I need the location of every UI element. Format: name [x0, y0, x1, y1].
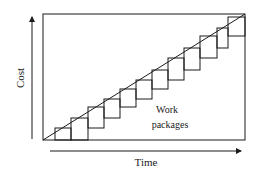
- work-package-step: [104, 99, 120, 118]
- cumulative-cost-line: [43, 14, 245, 140]
- work-package-step: [120, 89, 136, 107]
- y-axis-label: Cost: [14, 68, 26, 88]
- work-package-step: [184, 48, 200, 70]
- work-package-steps: [55, 17, 245, 140]
- cost-time-diagram: Cost Time Work packages: [0, 0, 258, 173]
- x-axis-label: Time: [135, 156, 158, 168]
- work-package-step: [152, 70, 168, 89]
- work-package-step: [168, 58, 184, 80]
- annotation-work: Work: [156, 104, 178, 115]
- work-package-step: [55, 128, 71, 140]
- work-package-step: [136, 80, 152, 99]
- work-package-step: [200, 36, 217, 58]
- annotation-packages: packages: [152, 119, 189, 130]
